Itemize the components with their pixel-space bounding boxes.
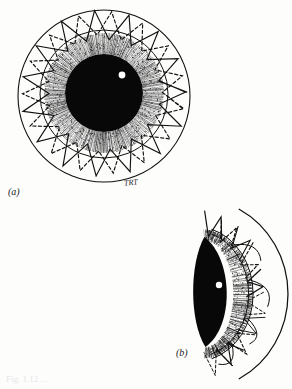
specular-highlight: [119, 72, 126, 79]
artist-signature: TRT: [124, 177, 139, 187]
panel-label-b: (b): [176, 347, 188, 358]
panel-label-a: (a): [8, 186, 20, 197]
pupil-lens-shape: [193, 237, 227, 347]
figure-caption-faint: Fig. 1.12 ...: [6, 374, 256, 386]
figure-svg: [0, 0, 292, 389]
specular-highlight-b: [216, 282, 222, 288]
panel-a-frontal-view: [18, 10, 190, 182]
figure-root: (a) (b) TRT Fig. 1.12 ...: [0, 0, 292, 389]
pupil-disc: [65, 54, 143, 132]
panel-b-lateral-view: [193, 209, 288, 379]
